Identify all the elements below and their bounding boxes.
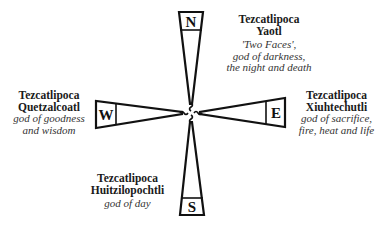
west-title-1: Tezcatlipoca: [5, 89, 93, 101]
east-letter: E: [271, 105, 281, 121]
south-title-2: Huitzilopochtli: [80, 184, 175, 196]
south-arm: S: [180, 122, 204, 215]
north-label: Tezcatlipoca Yaotl 'Two Faces', god of d…: [214, 13, 324, 74]
north-title-1: Tezcatlipoca: [214, 13, 324, 25]
east-arm: E: [200, 98, 285, 127]
west-letter: W: [99, 107, 114, 123]
south-title-1: Tezcatlipoca: [80, 172, 175, 184]
west-desc-2: and wisdom: [5, 125, 93, 137]
north-arm: N: [179, 12, 203, 104]
north-letter: N: [186, 14, 197, 30]
south-label: Tezcatlipoca Huitzilopochtli god of day: [80, 172, 175, 210]
west-desc-1: god of goodness: [5, 113, 93, 125]
compass-diagram: N S W E Tezcatlipoca Yaotl: [0, 0, 383, 226]
east-desc-2: fire, heat and life: [290, 125, 383, 137]
east-title-1: Tezcatlipoca: [290, 89, 383, 101]
north-desc-3: the night and death: [214, 62, 324, 74]
south-desc-1: god of day: [80, 198, 175, 210]
north-title-2: Yaotl: [214, 25, 324, 37]
west-label: Tezcatlipoca Quetzalcoatl god of goodnes…: [5, 89, 93, 136]
east-desc-1: god of sacrifice,: [290, 113, 383, 125]
south-letter: S: [188, 199, 196, 215]
east-label: Tezcatlipoca Xiuhtechutli god of sacrifi…: [290, 89, 383, 136]
center-junction: [180, 103, 202, 123]
west-arm: W: [96, 101, 182, 128]
north-desc-1: 'Two Faces',: [214, 39, 324, 51]
